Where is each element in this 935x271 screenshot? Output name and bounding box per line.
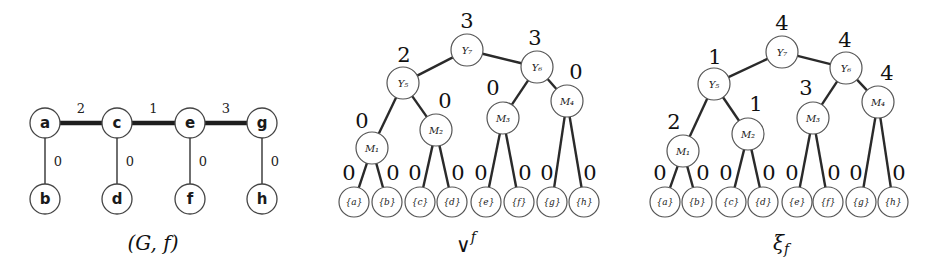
tree-edge [379,97,396,133]
tree-edge [554,117,564,187]
node-value: 3 [460,9,473,33]
tree-leaf-label: {b} [688,197,705,207]
node-value: 1 [749,92,762,116]
leaf-edge-value: 0 [892,161,905,185]
tree-node-label: M₄ [559,96,574,107]
tree-leaf-label: {d} [443,197,460,207]
tree-edge [376,163,383,187]
tree-node-label: M₂ [740,129,755,140]
tree-leaf-label: {h} [575,197,592,207]
tree-leaf-label: {e} [478,197,495,207]
graph-node-label: d [112,190,123,208]
edge-weight-label: 0 [126,154,134,169]
leaf-edge-value: 0 [451,161,464,185]
tree-caption: ∨f [456,229,479,257]
leaf-edge-value: 0 [518,161,531,185]
leaf-edge-value: 0 [849,161,862,185]
graph-node-label: c [113,114,122,132]
tree-edge [864,118,876,187]
tree-edge [548,79,557,89]
graph-node-label: g [257,114,268,132]
leaf-edge-value: 0 [408,161,421,185]
leaf-edge-value: 0 [719,161,732,185]
tree-edge [822,81,837,104]
edge-weight-label: 2 [77,101,85,116]
node-value: 2 [397,43,410,67]
tree-vee-f: Y₇3Y₅2Y₆3M₁0M₂0M₃0M₄0{a}0{b}0{c}0{d}0{e}… [339,9,599,257]
leaf-edge-value: 0 [762,161,775,185]
tree-node-label: M₂ [428,125,443,136]
tree-leaf-label: {a} [657,197,674,207]
tree-leaf-label: {d} [754,197,771,207]
leaf-edge-value: 0 [653,161,666,185]
tree-edge [687,166,693,187]
tree-node-label: Y₆ [532,62,543,73]
tree-node-label: M₁ [675,146,690,157]
leaf-edge-value: 0 [540,161,553,185]
tree-edge [423,146,432,188]
node-value: 4 [838,28,851,52]
tree-edge [857,80,867,91]
tree-node-label: M₄ [870,97,885,108]
node-value: 0 [486,76,499,100]
tree-node-label: M₃ [805,113,820,124]
leaf-edge-value: 0 [474,161,487,185]
tree-edge [412,96,427,117]
tree-leaf-label: {g} [852,197,869,207]
tree-edge [751,150,759,188]
tree-edge [670,166,678,188]
leaf-edge-value: 0 [827,161,840,185]
tree-node-label: M₁ [364,143,379,154]
tree-node-label: Y₇ [777,47,788,58]
tree-leaf-label: {c} [723,197,740,207]
edge-weight-label: 3 [222,101,230,116]
graph-node-label: b [40,190,51,208]
tree-leaf-label: {b} [378,197,395,207]
leaf-edge-value: 0 [342,161,355,185]
tree-edge [798,56,831,64]
caption-script: f [783,241,792,257]
tree-leaf-label: {f} [512,197,527,207]
tree-node-label: Y₆ [841,63,852,74]
edge-weight-label: 0 [271,154,279,169]
node-value: 0 [569,60,582,84]
figure-canvas: 2130000acegbdfh (G, f) Y₇3Y₅2Y₆3M₁0M₂0M₃… [0,0,935,271]
graph-caption: (G, f) [128,231,179,255]
tree-leaf-label: {h} [884,197,901,207]
edge-weight-label: 0 [199,154,207,169]
node-value: 2 [667,110,680,134]
tree-edge [800,134,810,188]
graph-node-label: a [40,114,50,132]
tree-leaf-label: {a} [346,197,363,207]
tree-leaf-label: {f} [821,197,836,207]
tree-edge [512,80,528,104]
caption-script: f [470,229,479,245]
tree-edge [489,134,500,188]
tree-node-label: Y₅ [709,79,720,90]
tree-edge [735,150,744,188]
graph-node-label: h [257,190,268,208]
node-value: 0 [438,89,451,113]
tree-edge [728,59,767,77]
node-value: 0 [355,109,368,133]
leaf-edge-value: 0 [386,161,399,185]
tree-caption: ξf [773,231,792,257]
tree-edge [417,57,453,75]
tree-leaf-label: {g} [543,197,560,207]
graph-caption-text: (G, f) [128,231,179,255]
tree-edge [359,163,367,188]
tree-xi-f: Y₇4Y₅1Y₆4M₁2M₂1M₃3M₄4{a}0{b}0{c}0{d}0{e}… [650,11,908,257]
node-value: 4 [775,11,788,35]
tree-edge [439,146,448,188]
node-value: 4 [880,61,893,85]
edge-weight-label: 0 [54,154,62,169]
tree-edge [880,118,890,187]
tree-edge [690,99,708,137]
graph-node-label: f [187,190,194,208]
node-value: 1 [708,45,721,69]
edge-weight-label: 1 [149,101,157,116]
caption-symbol: ∨ [456,233,471,257]
tree-leaf-label: {e} [789,197,806,207]
tree-leaf-label: {c} [412,197,429,207]
tree-node-label: M₃ [495,113,510,124]
